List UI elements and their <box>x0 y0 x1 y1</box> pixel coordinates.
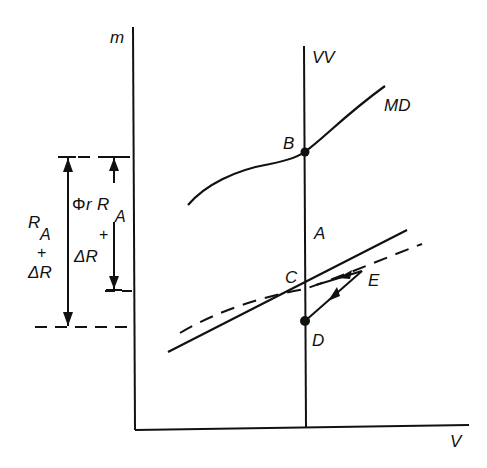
y-axis-label: m <box>110 28 124 47</box>
arrowhead-d-to-e <box>328 287 340 301</box>
outer-r-label: R <box>28 213 40 232</box>
inner-annotation: Φ r R A + ΔR <box>72 195 126 266</box>
point-d-label: D <box>312 331 324 350</box>
x-axis-label: V <box>450 432 463 451</box>
inner-phi: Φ <box>72 195 86 214</box>
point-b-label: B <box>283 134 294 153</box>
inner-r: r <box>86 195 93 214</box>
point-e-label: E <box>368 271 380 290</box>
outer-plus: + <box>37 244 46 261</box>
outer-arrowhead-top <box>63 158 73 172</box>
outer-delta-r: ΔR <box>27 263 52 282</box>
point-d-marker <box>300 316 310 326</box>
point-c-label: C <box>285 268 298 287</box>
inner-plus: + <box>99 226 108 243</box>
point-b-marker <box>301 148 310 157</box>
inner-arrowhead-top <box>109 158 119 171</box>
inner-R: R <box>97 195 109 214</box>
inner-delta-r: ΔR <box>73 247 98 266</box>
diagram-figure: m V VV MD B A C D E R A + ΔR Φ r R A + Δ… <box>0 0 487 468</box>
outer-annotation: R A + ΔR <box>27 213 52 282</box>
arrowhead-e-to-c <box>338 270 352 279</box>
md-label: MD <box>384 96 410 115</box>
vv-label: VV <box>312 48 336 67</box>
solid-line <box>168 230 407 352</box>
diagram-canvas: m V VV MD B A C D E R A + ΔR Φ r R A + Δ… <box>0 0 487 468</box>
inner-arrowhead-bottom <box>109 276 119 289</box>
point-a-label: A <box>313 224 325 243</box>
y-axis <box>133 27 135 430</box>
x-axis <box>135 425 469 430</box>
vv-line <box>304 46 306 428</box>
outer-r-subscript: A <box>39 226 51 243</box>
outer-arrowhead-bottom <box>63 312 73 326</box>
inner-subscript: A <box>114 208 126 225</box>
